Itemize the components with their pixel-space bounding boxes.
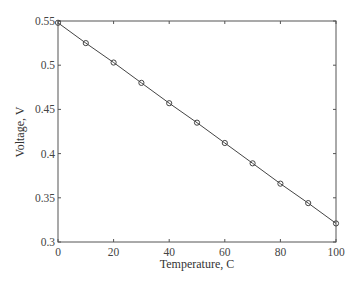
y-tick-label: 0.5: [41, 59, 56, 71]
y-tick-label: 0.3: [41, 236, 56, 248]
y-axis-label: Voltage, V: [13, 106, 27, 157]
y-tick-label: 0.4: [41, 148, 56, 160]
plot-frame: [58, 21, 336, 242]
x-tick-label: 100: [327, 246, 345, 258]
voltage-temperature-chart: 0204060801000.30.350.40.450.50.55 Temper…: [0, 0, 362, 281]
series-line: [58, 23, 336, 224]
y-tick-label: 0.55: [35, 15, 55, 27]
x-tick-label: 80: [275, 246, 287, 258]
y-tick-label: 0.35: [35, 192, 55, 204]
x-tick-label: 20: [108, 246, 120, 258]
y-tick-label: 0.45: [35, 103, 55, 115]
axis-ticks: 0204060801000.30.350.40.450.50.55: [35, 15, 345, 258]
x-tick-label: 0: [55, 246, 61, 258]
x-axis-label: Temperature, C: [160, 257, 234, 271]
plot-border: [58, 21, 336, 242]
data-series: [55, 20, 338, 226]
